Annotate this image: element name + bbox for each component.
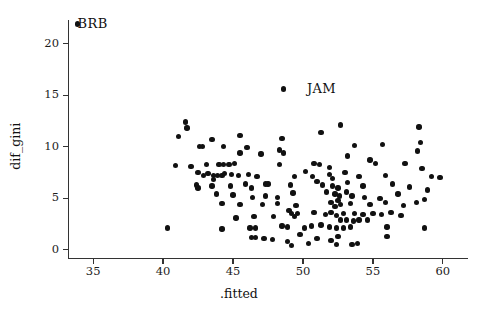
point-label-jam: JAM	[307, 82, 336, 95]
data-point	[429, 174, 434, 179]
data-point	[365, 217, 370, 222]
data-point	[330, 176, 335, 181]
data-point	[328, 238, 333, 243]
data-point	[377, 196, 382, 201]
data-point	[330, 183, 335, 188]
data-point	[289, 243, 294, 248]
data-point	[390, 181, 395, 186]
data-point	[309, 223, 314, 228]
data-point	[349, 193, 354, 198]
data-point	[277, 162, 282, 167]
data-point	[226, 162, 231, 167]
data-point	[293, 203, 298, 208]
data-point	[338, 202, 343, 207]
data-point	[244, 145, 249, 150]
data-point	[345, 180, 350, 185]
data-point	[243, 181, 248, 186]
data-point	[279, 136, 284, 141]
data-point	[345, 153, 350, 158]
data-point	[261, 236, 266, 241]
data-point	[373, 161, 378, 166]
data-point	[360, 183, 365, 188]
data-point	[237, 133, 242, 138]
data-point	[222, 171, 227, 176]
data-point	[209, 183, 214, 188]
data-point	[318, 130, 323, 135]
data-point	[317, 162, 322, 167]
data-point	[295, 211, 300, 216]
data-point	[303, 169, 308, 174]
data-point	[437, 175, 442, 180]
data-point	[275, 201, 280, 206]
data-point	[195, 185, 200, 190]
data-point	[209, 137, 214, 142]
data-point	[327, 224, 332, 229]
data-point	[219, 201, 224, 206]
data-point	[383, 173, 388, 178]
data-point	[311, 161, 316, 166]
data-point	[320, 182, 325, 187]
data-point	[388, 210, 393, 215]
data-point	[418, 140, 423, 145]
data-point	[356, 174, 361, 179]
data-point	[332, 204, 337, 209]
data-point	[247, 225, 252, 230]
data-point	[188, 164, 193, 169]
data-point	[422, 225, 427, 230]
data-point	[425, 187, 430, 192]
data-point	[228, 183, 233, 188]
data-point	[253, 235, 258, 240]
data-point	[341, 211, 346, 216]
data-point	[344, 217, 349, 222]
data-point	[290, 190, 295, 195]
data-point	[249, 185, 254, 190]
data-point	[230, 192, 235, 197]
data-point	[370, 211, 375, 216]
data-point	[355, 241, 360, 246]
data-point	[416, 124, 421, 129]
data-point	[328, 210, 333, 215]
data-point	[270, 237, 275, 242]
data-point	[356, 217, 361, 222]
data-point	[275, 195, 280, 200]
point-label-brb: BRB	[78, 17, 108, 30]
data-point	[219, 226, 224, 231]
data-point	[173, 163, 178, 168]
data-point	[236, 173, 241, 178]
data-point	[292, 174, 297, 179]
data-point	[352, 211, 357, 216]
data-point	[288, 182, 293, 187]
data-point	[246, 172, 251, 177]
data-point	[254, 174, 259, 179]
data-point	[351, 218, 356, 223]
data-point	[379, 212, 384, 217]
data-point	[263, 193, 268, 198]
data-point	[384, 224, 389, 229]
data-point	[362, 195, 367, 200]
data-point	[221, 162, 226, 167]
data-point	[327, 165, 332, 170]
data-point	[395, 191, 400, 196]
data-point	[281, 150, 286, 155]
data-point	[335, 234, 340, 239]
data-point	[407, 184, 412, 189]
data-point	[211, 177, 216, 182]
data-point	[297, 232, 302, 237]
data-point	[285, 224, 290, 229]
data-point	[214, 191, 219, 196]
data-point	[233, 215, 238, 220]
data-point	[237, 150, 242, 155]
data-point	[232, 161, 237, 166]
data-point	[165, 225, 170, 230]
data-point	[314, 236, 319, 241]
data-point	[398, 213, 403, 218]
data-point	[341, 225, 346, 230]
data-point	[176, 134, 181, 139]
data-point	[415, 148, 420, 153]
data-point	[311, 210, 316, 215]
data-point	[419, 166, 424, 171]
data-point	[367, 157, 372, 162]
scatter-plot-figure: 05101520 354045505560 .fitted dif_gini B…	[0, 0, 478, 319]
data-point	[348, 224, 353, 229]
data-point	[251, 214, 256, 219]
